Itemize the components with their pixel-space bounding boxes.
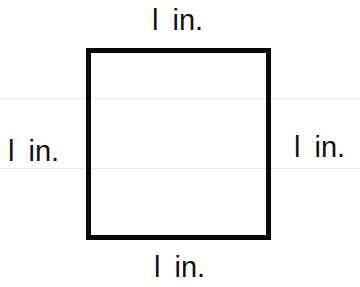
left-side-label: l in. <box>8 137 59 166</box>
top-side-label: l in. <box>152 6 203 35</box>
bottom-side-label: l in. <box>154 253 205 282</box>
square-shape <box>86 48 271 240</box>
right-side-label: l in. <box>294 133 345 162</box>
